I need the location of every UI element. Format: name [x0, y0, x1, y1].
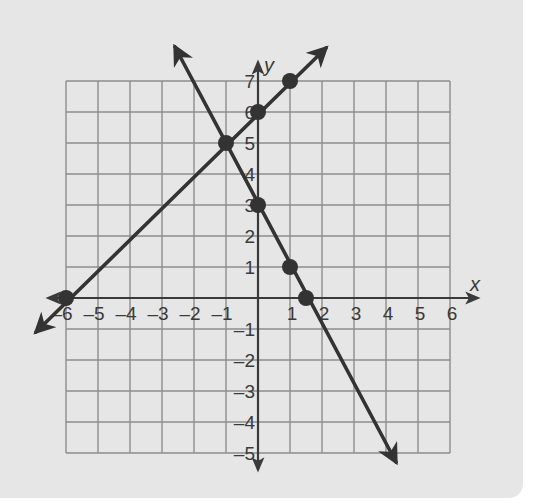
y-tick-label: –1 — [234, 319, 255, 340]
y-tick-label: –2 — [234, 350, 255, 371]
plotted-lines — [36, 47, 396, 462]
y-tick-label: 2 — [244, 226, 255, 247]
line-y-equals-x-plus-6 — [36, 48, 326, 332]
y-tick-label: 5 — [244, 133, 255, 154]
x-tick-label: 1 — [287, 303, 298, 324]
data-point — [282, 73, 298, 89]
y-axis-label: y — [262, 54, 275, 76]
line-y-equals-neg-2x-plus-3 — [175, 47, 396, 462]
x-tick-label: –4 — [115, 303, 137, 324]
x-tick-label: –1 — [211, 303, 232, 324]
y-tick-label: –3 — [234, 381, 255, 402]
x-tick-label: –2 — [179, 303, 200, 324]
x-tick-label: 4 — [383, 303, 394, 324]
x-tick-label: –3 — [147, 303, 168, 324]
x-tick-label: 3 — [351, 303, 362, 324]
y-tick-label: 1 — [244, 257, 255, 278]
x-tick-label: 5 — [415, 303, 426, 324]
x-axis-label: x — [469, 273, 481, 295]
data-point — [218, 135, 234, 151]
x-tick-label: 6 — [447, 303, 458, 324]
y-tick-label: 7 — [244, 71, 255, 92]
data-point — [282, 259, 298, 275]
y-tick-label: –5 — [234, 443, 255, 464]
data-point — [250, 197, 266, 213]
x-tick-label: –5 — [83, 303, 104, 324]
coordinate-plane: xy –6–5–4–3–2–11234567654321–1–2–3–4–5 — [0, 0, 535, 504]
data-point — [58, 290, 74, 306]
data-point — [298, 290, 314, 306]
y-tick-label: –4 — [234, 412, 256, 433]
data-point — [250, 104, 266, 120]
